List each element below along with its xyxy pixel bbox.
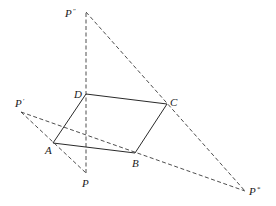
side-cd <box>86 94 167 104</box>
dashed-line-p-prime-to-p-star <box>21 112 245 191</box>
label-b: B <box>132 157 139 169</box>
label-p: P <box>81 177 89 189</box>
dashed-line-p-double-prime-to-p-star <box>86 12 245 191</box>
label-p-double-prime-mark: ″ <box>73 7 76 15</box>
label-p-prime-letter: P <box>14 97 22 109</box>
label-c: C <box>170 96 178 108</box>
label-p-star-letter: P <box>248 185 256 197</box>
side-da <box>53 94 86 143</box>
side-bc <box>135 104 167 153</box>
label-p-prime: P ′ <box>14 97 25 109</box>
label-p-prime-mark: ′ <box>23 97 25 105</box>
parallelogram-construction-diagram: P ″ D C A B P P ′ P * <box>0 0 276 206</box>
label-p-double-prime-letter: P <box>64 7 72 19</box>
label-d: D <box>73 88 82 100</box>
label-a: A <box>44 144 52 156</box>
label-p-double-prime: P ″ <box>64 7 76 19</box>
label-p-star: P * <box>248 185 261 197</box>
label-p-star-mark: * <box>257 185 261 193</box>
